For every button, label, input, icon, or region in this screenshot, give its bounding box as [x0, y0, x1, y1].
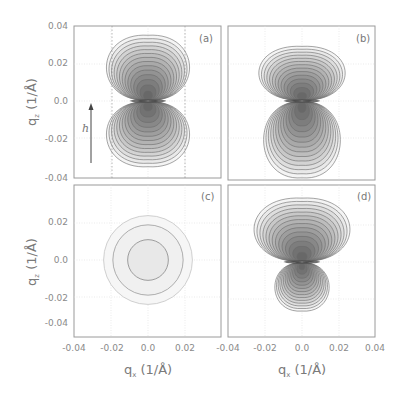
y-axis-label-bottom: qz (1/Å): [24, 238, 41, 286]
svg-text:qz (1/Å): qz (1/Å): [24, 238, 41, 286]
panel-label-a: (a): [199, 33, 213, 44]
svg-text:-0.02: -0.02: [253, 343, 276, 353]
svg-text:qx (1/Å): qx (1/Å): [278, 362, 326, 379]
svg-text:0.0: 0.0: [54, 96, 69, 106]
svg-text:0.0: 0.0: [141, 343, 156, 353]
panel-a: (a) h: [74, 26, 221, 178]
svg-text:0.02: 0.02: [48, 58, 68, 68]
svg-text:0.0: 0.0: [295, 343, 310, 353]
svg-text:0.02: 0.02: [175, 343, 195, 353]
svg-text:-0.02: -0.02: [45, 293, 68, 303]
panel-label-d: (d): [357, 191, 371, 202]
svg-text:-0.02: -0.02: [100, 343, 123, 353]
panel-b: (b): [228, 26, 375, 180]
panel-c: (c): [74, 185, 221, 337]
contour-lines: [104, 216, 193, 305]
svg-text:0.0: 0.0: [54, 255, 69, 265]
svg-text:-0.04: -0.04: [45, 173, 69, 183]
x-tick-labels-left: -0.04 -0.02 0.0 0.02: [62, 343, 195, 353]
y-axis-label-top: qz (1/Å): [24, 78, 41, 126]
arrow-label: h: [82, 122, 89, 135]
x-axis-label-right: qx (1/Å): [278, 362, 326, 379]
svg-text:0.02: 0.02: [329, 343, 349, 353]
x-tick-labels-right: -0.04 -0.02 0.0 0.02 0.04: [216, 343, 385, 353]
svg-text:0.04: 0.04: [48, 21, 68, 31]
panel-d: (d): [228, 185, 375, 337]
svg-text:0.02: 0.02: [48, 217, 68, 227]
y-tick-labels-bottom: 0.02 0.0 -0.02 -0.04: [45, 217, 69, 328]
svg-text:qx (1/Å): qx (1/Å): [124, 362, 172, 379]
svg-text:0.04: 0.04: [365, 343, 385, 353]
panel-label-b: (b): [356, 33, 370, 44]
svg-text:-0.04: -0.04: [216, 343, 240, 353]
figure: (a) h (b) (c) (d) 0.04 0.02 0.0 -0.02 -0…: [0, 0, 402, 397]
x-axis-label-left: qx (1/Å): [124, 362, 172, 379]
panel-label-c: (c): [201, 191, 214, 202]
y-tick-labels-top: 0.04 0.02 0.0 -0.02 -0.04: [45, 21, 69, 183]
svg-text:-0.04: -0.04: [45, 318, 69, 328]
svg-text:-0.04: -0.04: [62, 343, 86, 353]
svg-text:-0.02: -0.02: [45, 134, 68, 144]
svg-text:qz (1/Å): qz (1/Å): [24, 78, 41, 126]
